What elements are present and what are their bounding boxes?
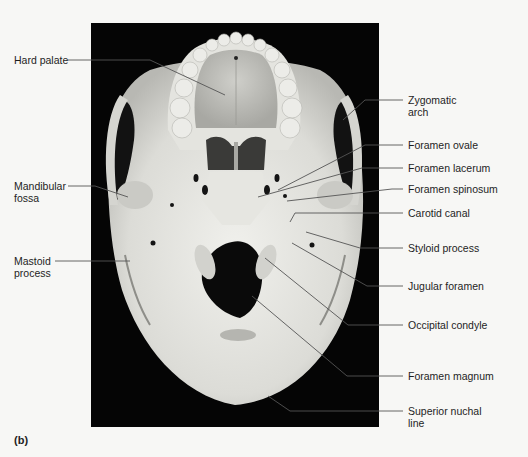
- label-foramen-ovale: Foramen ovale: [408, 139, 478, 151]
- label-text: Hard palate: [14, 54, 68, 66]
- label-text: Foramen spinosum: [408, 183, 498, 195]
- label-zygomatic-arch: Zygomatic arch: [408, 94, 456, 118]
- label-text-line1: Mastoid: [14, 255, 51, 267]
- label-superior-nuchal-line: Superior nuchal line: [408, 405, 482, 429]
- label-foramen-lacerum: Foramen lacerum: [408, 162, 490, 174]
- label-text: Foramen ovale: [408, 139, 478, 151]
- label-text: Jugular foramen: [408, 280, 484, 292]
- label-text-line2: arch: [408, 106, 456, 118]
- label-text: Foramen lacerum: [408, 162, 490, 174]
- label-mandibular-fossa: Mandibular fossa: [14, 180, 66, 204]
- label-text-line1: Mandibular: [14, 180, 66, 192]
- label-mastoid-process: Mastoid process: [14, 255, 51, 279]
- label-occipital-condyle: Occipital condyle: [408, 319, 487, 331]
- label-text: Occipital condyle: [408, 319, 487, 331]
- skull-inferior-view-figure: [0, 0, 528, 457]
- label-text-line2: line: [408, 417, 482, 429]
- label-styloid-process: Styloid process: [408, 242, 479, 254]
- label-text: Foramen magnum: [408, 370, 494, 382]
- label-jugular-foramen: Jugular foramen: [408, 280, 484, 292]
- label-foramen-spinosum: Foramen spinosum: [408, 183, 498, 195]
- label-carotid-canal: Carotid canal: [408, 207, 470, 219]
- label-text-line2: process: [14, 267, 51, 279]
- panel-label: (b): [14, 434, 28, 446]
- label-text-line1: Zygomatic: [408, 94, 456, 106]
- label-text: Carotid canal: [408, 207, 470, 219]
- label-text-line1: Superior nuchal: [408, 405, 482, 417]
- label-hard-palate: Hard palate: [14, 54, 68, 66]
- label-text: Styloid process: [408, 242, 479, 254]
- label-text-line2: fossa: [14, 192, 66, 204]
- label-foramen-magnum: Foramen magnum: [408, 370, 494, 382]
